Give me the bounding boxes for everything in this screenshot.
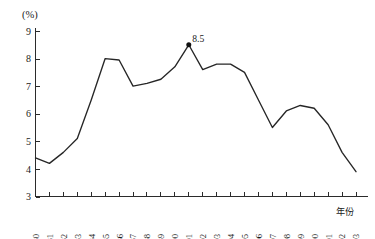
annotation-layer: 8.5 [186, 33, 204, 47]
x-axis-tick-label: 2001 [324, 234, 334, 239]
x-axis-tick-label: 1989 [156, 234, 166, 239]
x-axis-tick-label: 1994 [226, 233, 236, 239]
x-axis-tick-label: 1985 [101, 234, 111, 239]
x-axis-tick-label: 1987 [128, 233, 138, 239]
y-axis-tick-label: 8 [26, 53, 31, 64]
x-axis-tick-label: 1984 [87, 233, 97, 239]
y-axis-tick-labels: 3456789 [26, 26, 31, 203]
data-point-label: 8.5 [192, 33, 204, 44]
x-axis-tick-marks [36, 192, 357, 197]
x-axis-tick-label: 1993 [212, 234, 222, 239]
y-axis-tick-label: 7 [26, 81, 31, 92]
x-axis-tick-label: 1981 [45, 234, 55, 239]
x-axis-tick-label: 1997 [268, 233, 278, 239]
x-axis-tick-label: 2002 [337, 234, 347, 239]
x-axis-tick-label: 1983 [73, 234, 83, 239]
x-axis-tick-label: 1995 [240, 234, 250, 239]
x-axis-tick-label: 1991 [184, 234, 194, 239]
x-axis-tick-label: 1982 [59, 234, 69, 239]
y-axis-tick-label: 5 [26, 136, 31, 147]
x-axis-tick-label: 1998 [282, 234, 292, 239]
x-axis-tick-label: 1986 [115, 233, 125, 239]
x-axis-tick-label: 1999 [296, 234, 306, 239]
chart-canvas: (%) 3456789 1980198119821983198419851986… [0, 0, 375, 239]
x-axis-tick-label: 2000 [310, 234, 320, 239]
x-axis-tick-label: 1992 [198, 234, 208, 239]
data-series-line [36, 45, 357, 172]
y-axis-tick-label: 6 [26, 108, 31, 119]
data-point-marker [186, 42, 191, 47]
y-axis-tick-label: 4 [26, 164, 31, 175]
x-axis-title: 年份 [336, 206, 354, 217]
x-axis-tick-label: 1988 [142, 234, 152, 239]
x-axis-tick-label: 1990 [170, 234, 180, 239]
y-axis-unit-label: (%) [22, 9, 38, 21]
line-chart: (%) 3456789 1980198119821983198419851986… [0, 0, 375, 239]
x-axis-tick-label: 1980 [31, 234, 41, 239]
y-axis-tick-label: 9 [26, 26, 31, 37]
x-axis-tick-labels: 1980198119821983198419851986198719881989… [31, 233, 362, 239]
y-axis-tick-marks [36, 32, 41, 198]
x-axis-tick-label: 2003 [351, 234, 361, 239]
x-axis-tick-label: 1996 [254, 233, 264, 239]
y-axis-tick-label: 3 [26, 191, 31, 202]
